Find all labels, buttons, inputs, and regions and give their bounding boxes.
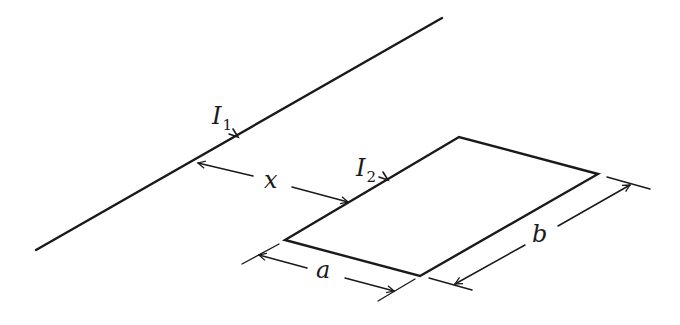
- current2-label: I2: [356, 156, 376, 180]
- side-a-label: a: [316, 258, 330, 282]
- distance-x-arrow-left: [198, 163, 253, 176]
- side-a-extension-right: [378, 279, 415, 301]
- side-a-extension-left: [242, 244, 279, 264]
- current1-label: I1: [212, 104, 232, 128]
- current1-symbol: I: [212, 102, 221, 130]
- diagram-canvas: I1 I2 x a b: [0, 0, 680, 325]
- side-b-extension-top: [607, 177, 650, 189]
- side-b-label: b: [532, 222, 547, 246]
- side-a-arrow-right: [345, 278, 394, 291]
- distance-x-label: x: [264, 168, 278, 192]
- long-wire: [36, 18, 442, 250]
- side-a-arrow-left: [259, 255, 307, 268]
- side-b-extension-bottom: [429, 278, 472, 290]
- current2-arrow-icon: [379, 172, 388, 180]
- distance-x-arrow-right: [292, 187, 348, 202]
- current2-subscript: 2: [366, 168, 376, 186]
- diagram-svg: [0, 0, 680, 325]
- rectangular-loop: [285, 137, 598, 276]
- current2-symbol: I: [356, 154, 365, 182]
- current1-subscript: 1: [222, 116, 232, 134]
